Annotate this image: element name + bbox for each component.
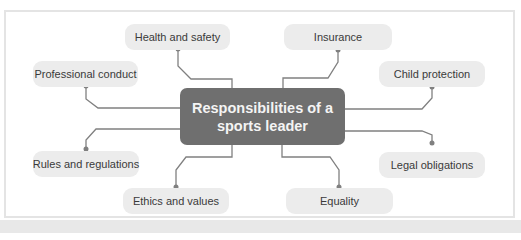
node-health-and-safety: Health and safety xyxy=(125,24,230,50)
node-professional-conduct: Professional conduct xyxy=(33,61,138,87)
center-title-line1: Responsibilities of a xyxy=(180,99,345,117)
node-legal-obligations: Legal obligations xyxy=(379,152,485,178)
node-child-protection: Child protection xyxy=(379,61,485,87)
node-label: Rules and regulations xyxy=(33,158,139,170)
node-ethics-and-values: Ethics and values xyxy=(123,188,229,214)
node-rules-and-regulations: Rules and regulations xyxy=(33,151,139,177)
node-label: Equality xyxy=(320,195,359,207)
center-title-line2: sports leader xyxy=(180,117,345,135)
node-equality: Equality xyxy=(286,188,393,214)
center-node: Responsibilities of a sports leader xyxy=(180,88,345,145)
node-label: Child protection xyxy=(394,68,470,80)
node-label: Ethics and values xyxy=(133,195,219,207)
node-label: Health and safety xyxy=(135,31,221,43)
node-label: Professional conduct xyxy=(34,68,136,80)
node-insurance: Insurance xyxy=(284,24,392,50)
node-label: Legal obligations xyxy=(391,159,474,171)
node-label: Insurance xyxy=(314,31,362,43)
